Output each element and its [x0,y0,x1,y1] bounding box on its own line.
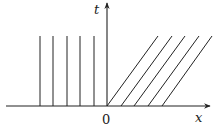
diagonal-line-5 [162,36,212,106]
diagonal-characteristic-lines [107,36,212,106]
diagonal-line-3 [134,36,185,106]
diagonal-line-2 [121,36,172,106]
characteristics-diagram: t x 0 [0,0,217,132]
t-axis-label: t [94,2,100,17]
vertical-characteristic-lines [40,36,94,106]
origin-label: 0 [102,112,110,127]
diagonal-line-4 [148,36,199,106]
diagonal-line-1 [107,36,158,106]
x-axis-label: x [195,110,203,125]
